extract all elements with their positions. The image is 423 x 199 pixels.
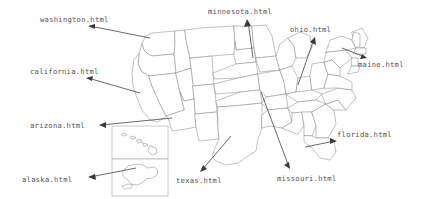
state-north-dakota bbox=[234, 26, 254, 50]
state-new-york bbox=[326, 36, 356, 52]
label-ohio[interactable]: ohio.html bbox=[290, 26, 331, 34]
label-texas[interactable]: texas.html bbox=[176, 177, 222, 185]
label-minnesota[interactable]: minnesota.html bbox=[208, 8, 272, 16]
state-new-mexico bbox=[195, 112, 219, 141]
us-map-graphic[interactable] bbox=[0, 0, 423, 199]
state-minnesota bbox=[252, 25, 276, 58]
map-stage: washington.html california.html arizona.… bbox=[0, 0, 423, 199]
state-virginia bbox=[324, 74, 352, 90]
label-alaska[interactable]: alaska.html bbox=[22, 176, 72, 184]
label-washington[interactable]: washington.html bbox=[40, 16, 109, 24]
label-arizona[interactable]: arizona.html bbox=[30, 122, 85, 130]
state-colorado bbox=[193, 84, 217, 114]
state-montana bbox=[185, 26, 236, 58]
label-missouri[interactable]: missouri.html bbox=[277, 175, 337, 183]
label-maine[interactable]: maine.html bbox=[358, 61, 404, 69]
state-wyoming bbox=[190, 56, 214, 86]
map-insets bbox=[112, 126, 168, 196]
label-california[interactable]: california.html bbox=[30, 68, 99, 76]
arrow-washington bbox=[88, 24, 150, 38]
state-iowa bbox=[256, 56, 280, 72]
state-washington bbox=[142, 31, 175, 56]
state-texas bbox=[212, 103, 262, 165]
label-florida[interactable]: florida.html bbox=[337, 131, 392, 139]
arrow-california bbox=[86, 76, 140, 93]
